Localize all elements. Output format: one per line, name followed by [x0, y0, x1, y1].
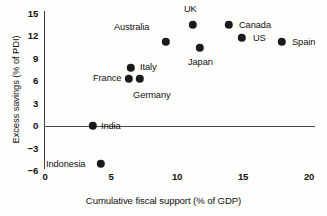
x-tick-10: 10 — [162, 171, 192, 183]
x-tick-label: 15 — [228, 171, 258, 182]
y-axis-title: Excess savings (% of PDI) — [10, 20, 21, 160]
data-point-italy[interactable] — [127, 64, 135, 72]
data-point-indonesia[interactable] — [97, 160, 105, 168]
data-point-us[interactable] — [238, 34, 246, 42]
x-tick-5: 5 — [96, 171, 126, 183]
x-tick-20: 20 — [294, 171, 324, 183]
x-tick-label: 5 — [96, 171, 126, 182]
x-axis-title: Cumulative fiscal support (% of GDP) — [0, 195, 327, 206]
point-label-indonesia: Indonesia — [46, 159, 85, 169]
point-label-spain: Spain — [292, 37, 315, 47]
x-tick-label: 20 — [294, 171, 324, 182]
point-label-uk: UK — [184, 4, 197, 14]
data-point-france[interactable] — [125, 75, 133, 83]
x-tick-label: 0 — [30, 171, 60, 182]
data-point-canada[interactable] — [225, 21, 233, 29]
point-label-australia: Australia — [114, 22, 149, 32]
point-label-india: India — [101, 121, 121, 131]
point-label-italy: Italy — [140, 62, 157, 72]
zero-reference-line — [44, 126, 315, 127]
data-point-india[interactable] — [89, 122, 97, 130]
x-tick-label: 10 — [162, 171, 192, 182]
y-tick-15: 15 — [0, 8, 38, 19]
point-label-japan: Japan — [188, 57, 213, 67]
point-label-france: France — [93, 73, 121, 83]
y-tick-label: 15 — [0, 8, 38, 19]
y-axis-line — [44, 11, 45, 169]
scatter-chart: 15 12 9 6 3 0 −3 −6 0 5 10 15 20 UK Cana… — [0, 0, 327, 216]
data-point-japan[interactable] — [196, 44, 204, 52]
data-point-spain[interactable] — [278, 38, 286, 46]
point-label-canada: Canada — [239, 20, 271, 30]
data-point-germany[interactable] — [136, 75, 144, 83]
x-tick-15: 15 — [228, 171, 258, 183]
data-point-uk[interactable] — [189, 21, 197, 29]
data-point-australia[interactable] — [162, 38, 170, 46]
point-label-germany: Germany — [133, 90, 171, 100]
point-label-us: US — [253, 33, 266, 43]
x-tick-0: 0 — [30, 171, 60, 183]
